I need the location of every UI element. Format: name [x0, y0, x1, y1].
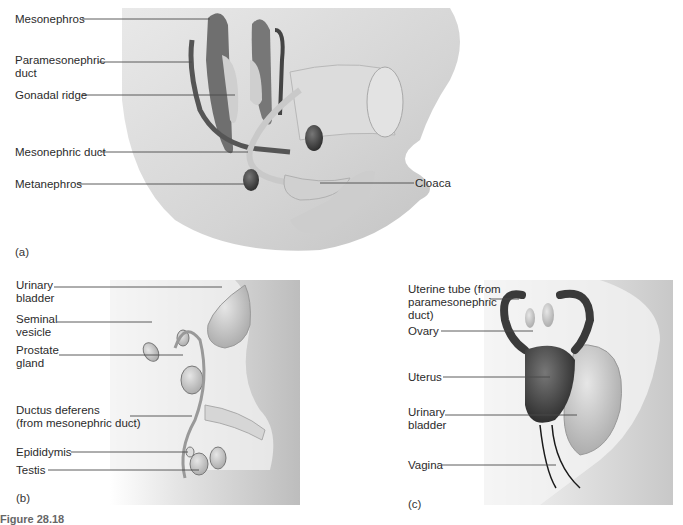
- panel-tag-c: (c): [408, 498, 421, 510]
- label-prostate-gland-line2: gland: [16, 357, 44, 370]
- label-urinary-bladder-female-line2: bladder: [408, 419, 446, 432]
- label-urinary-bladder-male-line1: Urinary: [16, 279, 53, 292]
- panel-tag-b: (b): [16, 492, 30, 504]
- panel-b-male: [110, 280, 300, 505]
- label-ductus-deferens-line2: (from mesonephric duct): [16, 417, 141, 430]
- figure-caption: Figure 28.18: [0, 513, 64, 525]
- label-uterus: Uterus: [408, 371, 442, 384]
- label-paramesonephric-duct-line2: duct: [15, 67, 37, 80]
- label-gonadal-ridge: Gonadal ridge: [15, 89, 87, 102]
- label-metanephros: Metanephros: [15, 178, 82, 191]
- label-prostate-gland-line1: Prostate: [16, 344, 59, 357]
- label-testis: Testis: [16, 464, 45, 477]
- label-seminal-vesicle-line1: Seminal: [16, 313, 58, 326]
- label-ductus-deferens-line1: Ductus deferens: [16, 404, 100, 417]
- label-ovary: Ovary: [408, 325, 439, 338]
- panel-a-embryo: [122, 8, 460, 251]
- label-paramesonephric-duct-line1: Paramesonephric: [15, 54, 105, 67]
- label-uterine-tube-line1: Uterine tube (from: [408, 283, 501, 296]
- panel-c-female: [484, 280, 673, 505]
- label-urinary-bladder-male-line2: bladder: [16, 292, 54, 305]
- label-mesonephric-duct: Mesonephric duct: [15, 146, 106, 159]
- label-vagina: Vagina: [408, 459, 443, 472]
- label-mesonephros: Mesonephros: [15, 13, 85, 26]
- label-uterine-tube-line3: duct): [408, 309, 434, 322]
- label-uterine-tube-line2: paramesonephric: [408, 296, 497, 309]
- label-urinary-bladder-female-line1: Urinary: [408, 406, 445, 419]
- label-cloaca: Cloaca: [415, 177, 451, 190]
- label-seminal-vesicle-line2: vesicle: [16, 326, 51, 339]
- panel-tag-a: (a): [15, 246, 29, 258]
- label-epididymis: Epididymis: [16, 446, 72, 459]
